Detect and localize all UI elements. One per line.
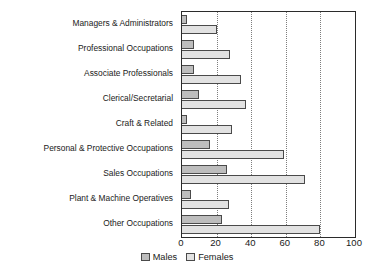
category-axis: Managers & Administrators Professional O… [0, 11, 177, 236]
bar-males[interactable] [182, 165, 227, 174]
plot-area [181, 11, 356, 238]
category-label-row: Managers & Administrators [0, 11, 177, 36]
bar-females[interactable] [182, 125, 232, 134]
category-label: Professional Occupations [78, 44, 173, 53]
bar-group [182, 187, 355, 212]
bar-group [182, 37, 355, 62]
bar-males[interactable] [182, 90, 199, 99]
bar-males[interactable] [182, 215, 222, 224]
category-label-row: Associate Professionals [0, 61, 177, 86]
bar-males[interactable] [182, 65, 194, 74]
bar-group [182, 137, 355, 162]
legend-item-males[interactable]: Males [141, 252, 178, 262]
category-label: Other Occupations [103, 219, 173, 228]
bar-males[interactable] [182, 15, 187, 24]
x-tick-label: 20 [210, 237, 221, 248]
bar-males[interactable] [182, 140, 210, 149]
bar-group [182, 112, 355, 137]
bar-group [182, 62, 355, 87]
category-label-row: Clerical/Secretarial [0, 86, 177, 111]
category-label: Sales Occupations [103, 169, 173, 178]
legend-swatch-icon [141, 253, 150, 261]
category-label-row: Personal & Protective Occupations [0, 136, 177, 161]
x-axis: 020406080100 [181, 237, 354, 251]
plot-inner [182, 12, 355, 237]
bar-males[interactable] [182, 115, 187, 124]
x-tick-label: 100 [346, 237, 362, 248]
legend: Males Females [0, 252, 374, 262]
bar-group [182, 212, 355, 237]
bar-females[interactable] [182, 225, 320, 234]
category-label: Managers & Administrators [72, 19, 173, 28]
bar-females[interactable] [182, 200, 229, 209]
bar-group [182, 12, 355, 37]
x-tick-label: 40 [245, 237, 256, 248]
bar-males[interactable] [182, 190, 191, 199]
legend-item-females[interactable]: Females [186, 252, 233, 262]
legend-label: Males [153, 252, 178, 262]
category-label-row: Sales Occupations [0, 161, 177, 186]
x-tick-label: 80 [314, 237, 325, 248]
category-label: Associate Professionals [84, 69, 173, 78]
category-label-row: Plant & Machine Operatives [0, 186, 177, 211]
category-label-row: Other Occupations [0, 211, 177, 236]
category-label: Personal & Protective Occupations [44, 144, 173, 153]
legend-label: Females [198, 252, 233, 262]
bars-layer [182, 12, 355, 237]
bar-females[interactable] [182, 50, 230, 59]
category-label: Craft & Related [116, 119, 173, 128]
category-label: Clerical/Secretarial [103, 94, 173, 103]
legend-swatch-icon [186, 253, 195, 261]
x-tick-label: 60 [280, 237, 291, 248]
bar-females[interactable] [182, 150, 284, 159]
bar-females[interactable] [182, 175, 305, 184]
bar-females[interactable] [182, 100, 246, 109]
bar-chart: Managers & Administrators Professional O… [0, 0, 374, 272]
x-tick-label: 0 [178, 237, 183, 248]
bar-males[interactable] [182, 40, 194, 49]
bar-group [182, 87, 355, 112]
bar-females[interactable] [182, 25, 217, 34]
category-label-row: Craft & Related [0, 111, 177, 136]
bar-females[interactable] [182, 75, 241, 84]
category-label-row: Professional Occupations [0, 36, 177, 61]
bar-group [182, 162, 355, 187]
category-label: Plant & Machine Operatives [69, 194, 173, 203]
